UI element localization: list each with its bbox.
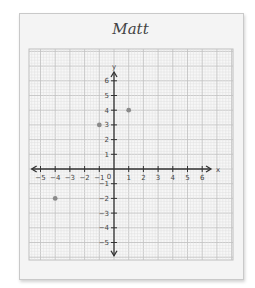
data-point — [126, 108, 131, 113]
svg-text:1: 1 — [126, 174, 130, 182]
svg-text:−2: −2 — [79, 174, 89, 182]
svg-text:y: y — [112, 63, 116, 71]
svg-text:4: 4 — [171, 174, 176, 182]
svg-text:6: 6 — [200, 174, 205, 182]
svg-text:2: 2 — [141, 174, 145, 182]
svg-text:−1: −1 — [99, 180, 109, 188]
svg-text:−4: −4 — [50, 174, 61, 182]
svg-text:5: 5 — [105, 92, 109, 100]
data-point — [97, 123, 102, 128]
svg-text:−3: −3 — [65, 174, 75, 182]
svg-text:3: 3 — [156, 174, 160, 182]
svg-text:x: x — [216, 166, 220, 174]
svg-text:4: 4 — [105, 107, 110, 115]
svg-text:5: 5 — [185, 174, 189, 182]
svg-text:−4: −4 — [99, 224, 110, 232]
data-point — [53, 196, 58, 201]
coordinate-plane: −5−4−3−2−10123456−5−4−3−2−1123456xy — [0, 0, 255, 288]
svg-text:2: 2 — [105, 136, 109, 144]
svg-text:3: 3 — [105, 121, 109, 129]
svg-text:1: 1 — [105, 151, 109, 159]
svg-text:6: 6 — [105, 77, 110, 85]
svg-text:−3: −3 — [99, 210, 109, 218]
svg-text:−5: −5 — [35, 174, 45, 182]
grid — [29, 49, 233, 260]
svg-text:−5: −5 — [99, 239, 109, 247]
svg-text:−2: −2 — [99, 195, 109, 203]
